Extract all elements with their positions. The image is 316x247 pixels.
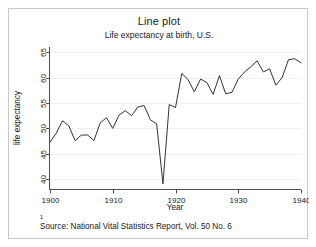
y-tick-label: 50 — [39, 124, 48, 133]
footnote-marker: 1 — [40, 214, 43, 220]
y-axis-title: life expectancy — [13, 90, 22, 145]
x-axis-title: Year — [167, 203, 184, 212]
footnote-source: Source: National Vital Statistics Report… — [40, 222, 232, 231]
x-tick-label: 1910 — [105, 196, 123, 205]
graph-frame: Line plot Life expectancy at birth, U.S.… — [8, 8, 308, 239]
x-tick-label: 1940 — [293, 196, 309, 205]
y-tick-label: 45 — [39, 150, 48, 159]
x-tick-label: 1930 — [230, 196, 248, 205]
y-tick-label: 55 — [39, 99, 48, 108]
data-series-life-expectancy — [50, 59, 301, 184]
y-tick-label: 60 — [39, 74, 48, 83]
y-tick-label: 65 — [39, 48, 48, 57]
x-tick-label: 1900 — [42, 196, 60, 205]
y-tick-label: 40 — [39, 175, 48, 184]
line-plot: 404550556065 19001910192019301940 life e… — [9, 9, 309, 240]
y-axis-ticks: 404550556065 — [39, 48, 50, 184]
